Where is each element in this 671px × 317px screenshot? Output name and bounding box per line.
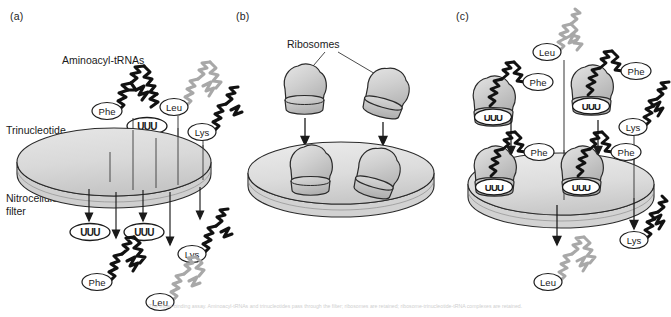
leu-label: Leu bbox=[539, 47, 555, 58]
ribosome-above-1 bbox=[284, 64, 326, 114]
leu-label: Leu bbox=[166, 102, 182, 113]
panel-b: (b) Ribosomes bbox=[228, 0, 448, 317]
phe-label: Phe bbox=[618, 147, 635, 158]
lys-trna-below: Lys bbox=[178, 209, 232, 263]
codon-label: UUU bbox=[572, 182, 591, 193]
lys-trna-above: Lys bbox=[619, 82, 669, 136]
leu-trna-above: Leu bbox=[533, 9, 582, 61]
trinucleotide-below-1: UUU bbox=[70, 224, 110, 241]
figure-caption: The triplet-binding assay. Aminoacyl-tRN… bbox=[0, 303, 671, 310]
phe-trna-above: Phe bbox=[92, 66, 158, 120]
codon-label: UUU bbox=[484, 112, 503, 123]
ribosome-complex-above-1: UUU Phe bbox=[473, 62, 553, 126]
downward-arrows bbox=[301, 118, 387, 145]
nitrocellulose-filter-disk bbox=[248, 142, 434, 217]
phe-trna-below: Phe bbox=[82, 237, 145, 291]
phe-label: Phe bbox=[89, 277, 106, 288]
leu-label: Leu bbox=[540, 277, 556, 288]
codon-label: UUU bbox=[485, 182, 504, 193]
panel-a: (a) Aminoacyl-tRNAs Trinucleotide Nitroc… bbox=[0, 0, 228, 317]
figure-canvas: (a) Aminoacyl-tRNAs Trinucleotide Nitroc… bbox=[0, 0, 671, 317]
phe-label: Phe bbox=[628, 66, 645, 77]
codon-label: UUU bbox=[80, 227, 100, 238]
phe-label: Phe bbox=[530, 77, 547, 88]
leu-trna-below: Leu bbox=[534, 237, 595, 291]
phe-label: Phe bbox=[99, 106, 116, 117]
leu-trna-above: Leu bbox=[160, 62, 221, 116]
codon-label: UUU bbox=[134, 227, 154, 238]
panel-c: (c) bbox=[448, 0, 671, 317]
ribosome-above-2 bbox=[360, 63, 414, 123]
nitrocellulose-filter-disk bbox=[17, 128, 211, 208]
lys-label: Lys bbox=[627, 235, 642, 246]
lys-label: Lys bbox=[626, 122, 641, 133]
codon-label: UUU bbox=[582, 101, 601, 112]
lys-label: Lys bbox=[195, 127, 210, 138]
phe-label: Phe bbox=[531, 147, 548, 158]
ribosome-complex-above-2: UUU Phe bbox=[571, 51, 651, 115]
ribosome-on-filter-1 bbox=[290, 145, 332, 195]
